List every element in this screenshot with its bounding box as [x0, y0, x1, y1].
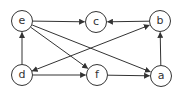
edge-f-a	[108, 75, 150, 76]
node-d-label: d	[19, 69, 26, 80]
graph-canvas: e c b d f a	[0, 0, 182, 93]
node-a-label: a	[158, 70, 165, 81]
node-e[interactable]: e	[11, 10, 33, 32]
node-e-label: e	[19, 15, 26, 26]
node-f[interactable]: f	[86, 64, 108, 86]
node-a[interactable]: a	[150, 65, 172, 87]
node-c-label: c	[93, 16, 99, 27]
node-c[interactable]: c	[85, 11, 107, 33]
node-d[interactable]: d	[11, 64, 33, 86]
edge-e-c	[33, 21, 85, 22]
edge-a-b	[160, 33, 161, 66]
edge-e-f	[31, 27, 88, 68]
node-f-label: f	[95, 69, 99, 80]
edge-b-c	[108, 21, 150, 22]
node-b[interactable]: b	[149, 10, 171, 32]
node-b-label: b	[157, 15, 164, 26]
